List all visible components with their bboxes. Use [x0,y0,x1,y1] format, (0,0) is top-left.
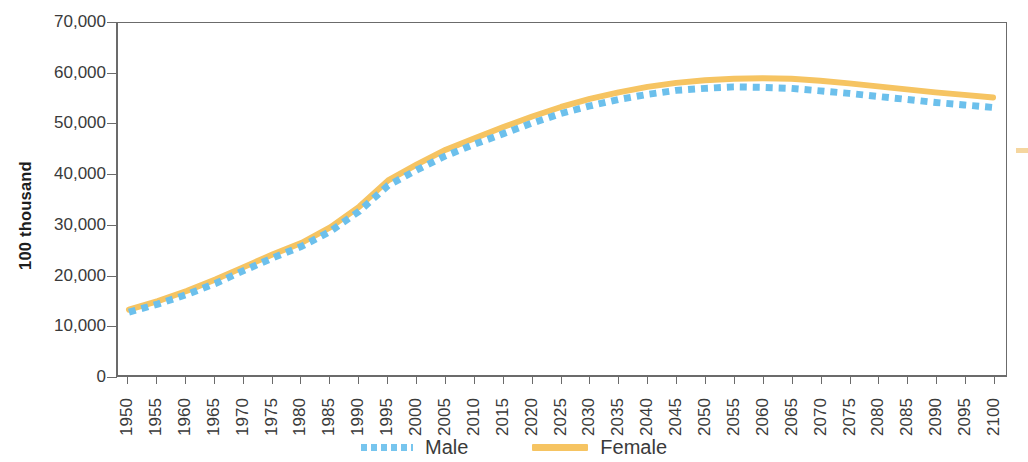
legend-swatch-male-icon [361,444,413,451]
x-tick-mark [907,377,908,384]
chart-legend: Male Female [0,432,1028,462]
x-tick-mark [965,377,966,384]
x-tick-label-text: 2080 [868,398,888,436]
x-tick-label-text: 2060 [753,398,773,436]
x-tick-label-text: 1965 [204,398,224,436]
x-tick-mark [763,377,764,384]
y-tick-mark [107,326,117,327]
y-tick-mark [107,377,117,378]
y-tick-label: 40,000 [26,164,106,184]
legend-label-female: Female [600,436,667,459]
x-tick-label-text: 2005 [435,398,455,436]
x-tick-label-text: 2100 [984,398,1004,436]
x-tick-mark [705,377,706,384]
y-tick-label: 50,000 [26,113,106,133]
x-tick-label-text: 2030 [579,398,599,436]
x-tick-label-text: 2015 [493,398,513,436]
plot-svg [118,23,1006,375]
x-tick-label-text: 2095 [955,398,975,436]
x-tick-mark [243,377,244,384]
x-tick-mark [936,377,937,384]
legend-item-female: Female [532,436,667,459]
x-tick-label-text: 1990 [348,398,368,436]
y-tick-mark [107,22,117,23]
y-tick-mark [107,174,117,175]
y-tick-mark [107,225,117,226]
y-tick-label: 70,000 [26,12,106,32]
x-tick-mark [878,377,879,384]
x-tick-label-text: 2045 [666,398,686,436]
x-tick-mark [358,377,359,384]
x-tick-mark [185,377,186,384]
x-tick-label-text: 1985 [319,398,339,436]
x-tick-label-text: 2040 [637,398,657,436]
x-tick-mark [792,377,793,384]
x-tick-mark [300,377,301,384]
x-tick-label-text: 2090 [926,398,946,436]
y-tick-label: 30,000 [26,215,106,235]
x-tick-mark [532,377,533,384]
y-tick-label: 20,000 [26,266,106,286]
x-tick-label-text: 1975 [262,398,282,436]
plot-area [116,22,1007,377]
scan-artifact [1016,148,1028,153]
y-tick-mark [107,276,117,277]
x-tick-mark [127,377,128,384]
x-tick-label-text: 2065 [782,398,802,436]
legend-label-male: Male [425,436,468,459]
x-tick-mark [994,377,995,384]
y-tick-mark [107,123,117,124]
x-tick-label-text: 2085 [897,398,917,436]
x-tick-label-text: 1995 [377,398,397,436]
x-tick-mark [272,377,273,384]
x-tick-mark [387,377,388,384]
x-tick-label-text: 1960 [175,398,195,436]
x-tick-label-text: 2070 [811,398,831,436]
x-tick-mark [618,377,619,384]
x-tick-label-text: 1980 [290,398,310,436]
x-tick-mark [445,377,446,384]
x-tick-label-text: 2010 [464,398,484,436]
x-tick-label-text: 1950 [117,398,137,436]
population-projection-chart: 100 thousand 010,00020,00030,00040,00050… [0,0,1028,462]
legend-item-male: Male [361,436,468,459]
x-tick-label-text: 1970 [233,398,253,436]
legend-swatch-female-icon [532,444,588,451]
x-tick-mark [850,377,851,384]
x-tick-mark [474,377,475,384]
x-tick-mark [156,377,157,384]
x-tick-mark [676,377,677,384]
y-tick-label: 10,000 [26,316,106,336]
x-tick-mark [329,377,330,384]
x-tick-label-text: 2050 [695,398,715,436]
x-tick-mark [416,377,417,384]
x-tick-label-text: 2000 [406,398,426,436]
y-tick-label: 0 [26,367,106,387]
y-tick-label: 60,000 [26,63,106,83]
y-tick-mark [107,73,117,74]
series-line-male [129,87,993,312]
x-tick-mark [214,377,215,384]
x-tick-mark [647,377,648,384]
x-tick-label-text: 2075 [840,398,860,436]
x-tick-label-text: 2025 [551,398,571,436]
x-tick-mark [734,377,735,384]
x-tick-mark [589,377,590,384]
x-tick-label-text: 2035 [608,398,628,436]
x-tick-label-text: 2055 [724,398,744,436]
x-tick-mark [503,377,504,384]
x-tick-label-text: 2020 [522,398,542,436]
x-tick-mark [561,377,562,384]
x-tick-label-text: 1955 [146,398,166,436]
x-tick-mark [821,377,822,384]
